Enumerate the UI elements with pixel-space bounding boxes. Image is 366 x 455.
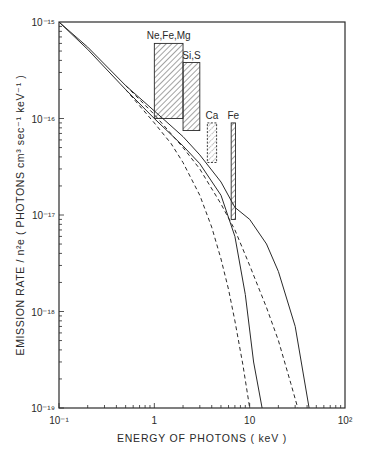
emission-box	[183, 63, 200, 131]
emission-box	[207, 123, 216, 163]
x-axis-label: ENERGY OF PHOTONS ( keV )	[59, 432, 345, 444]
emission-box	[154, 43, 183, 118]
x-tick-label: 10⁻¹	[49, 415, 69, 426]
emission-rate-chart: 10⁻¹11010²10⁻¹⁵10⁻¹⁶10⁻¹⁷10⁻¹⁸10⁻¹⁹ Ne,F…	[0, 0, 366, 455]
y-tick-label: 10⁻¹⁸	[31, 307, 55, 318]
element-label: Si,S	[182, 50, 201, 61]
element-label: Fe	[228, 110, 240, 121]
x-tick-label: 10²	[338, 415, 353, 426]
y-tick-label: 10⁻¹⁶	[31, 114, 55, 125]
x-tick-label: 10	[244, 415, 256, 426]
plot-frame	[59, 22, 345, 408]
x-tick-label: 1	[152, 415, 158, 426]
element-label: Ca	[206, 110, 219, 121]
y-tick-label: 10⁻¹⁵	[31, 17, 55, 28]
y-tick-label: 10⁻¹⁷	[32, 210, 55, 221]
line-emission-boxes	[154, 43, 235, 219]
element-label: Ne,Fe,Mg	[147, 30, 191, 41]
y-tick-label: 10⁻¹⁹	[31, 403, 55, 414]
y-axis-label-text: EMISSION RATE / n²e ( PHOTONS cm³ sec⁻¹ …	[14, 75, 26, 356]
